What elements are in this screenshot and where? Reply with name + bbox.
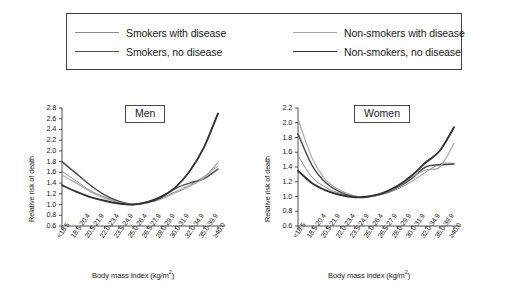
- legend-swatch-nonsmokers-with-disease: [293, 32, 337, 33]
- legend: Smokers with disease Non-smokers with di…: [66, 13, 462, 70]
- legend-grid: Smokers with disease Non-smokers with di…: [75, 23, 455, 61]
- x-axis-title-women: Body mass index (kg/m2): [328, 269, 410, 280]
- legend-label-smokers-no-disease: Smokers, no disease: [126, 46, 222, 58]
- legend-item-nonsmokers-no-disease: Non-smokers, no disease: [293, 46, 465, 58]
- plot-area-women: [254, 100, 484, 275]
- legend-label-nonsmokers-no-disease: Non-smokers, no disease: [344, 46, 461, 58]
- legend-swatch-smokers-with-disease: [75, 32, 119, 33]
- legend-item-nonsmokers-with-disease: Non-smokers with disease: [293, 27, 465, 39]
- legend-label-nonsmokers-with-disease: Non-smokers with disease: [344, 27, 465, 39]
- legend-swatch-smokers-no-disease: [75, 51, 119, 52]
- legend-item-smokers-with-disease: Smokers with disease: [75, 27, 293, 39]
- plot-area-men: [18, 100, 248, 275]
- legend-swatch-nonsmokers-no-disease: [293, 51, 337, 52]
- x-axis-title-men: Body mass index (kg/m2): [92, 269, 174, 280]
- legend-item-smokers-no-disease: Smokers, no disease: [75, 46, 293, 58]
- legend-label-smokers-with-disease: Smokers with disease: [126, 27, 226, 39]
